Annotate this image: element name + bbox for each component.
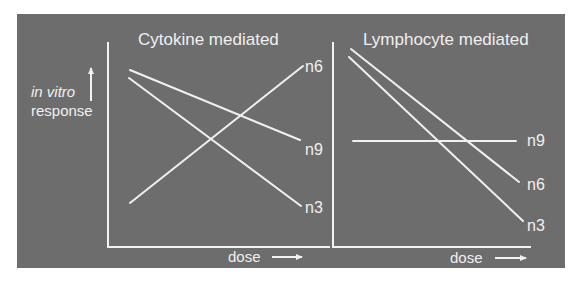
figure: Cytokine mediated in vitro response dose… bbox=[0, 0, 586, 284]
right-x-axis-label: dose bbox=[450, 249, 483, 266]
right-panel-title: Lymphocyte mediated bbox=[363, 30, 529, 49]
right-series-label-n9: n9 bbox=[527, 132, 545, 149]
right-series-label-n6: n6 bbox=[527, 176, 545, 193]
left-series-label-n3: n3 bbox=[305, 199, 323, 216]
right-series-label-n3: n3 bbox=[527, 217, 545, 234]
left-series-label-n6: n6 bbox=[305, 58, 323, 75]
y-axis-label-line2: response bbox=[31, 102, 93, 119]
left-series-label-n9: n9 bbox=[305, 141, 323, 158]
y-axis-label-line1: in vitro bbox=[31, 83, 75, 100]
left-panel-title: Cytokine mediated bbox=[138, 30, 279, 49]
left-x-axis-label: dose bbox=[228, 248, 261, 265]
